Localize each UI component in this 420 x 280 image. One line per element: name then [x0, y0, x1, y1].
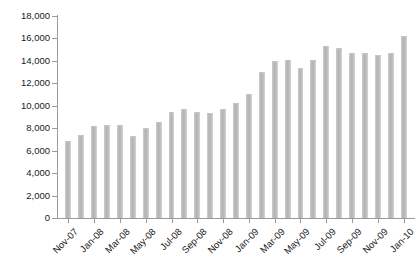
- y-axis-tick-label: 2,000: [2, 191, 50, 201]
- bar: [169, 112, 175, 218]
- x-axis-tick: [197, 218, 198, 223]
- bar: [65, 141, 71, 218]
- x-axis-tick: [94, 218, 95, 223]
- bar: [181, 109, 187, 218]
- bar: [375, 55, 381, 218]
- y-axis-tick: [52, 128, 57, 129]
- y-axis-tick-label: 4,000: [2, 168, 50, 178]
- bar: [310, 60, 316, 218]
- y-axis-tick: [52, 196, 57, 197]
- x-axis-tick: [275, 218, 276, 223]
- bar: [143, 128, 149, 218]
- x-axis-tick: [120, 218, 121, 223]
- bar: [323, 46, 329, 218]
- y-axis-tick: [52, 38, 57, 39]
- bar: [298, 68, 304, 218]
- y-axis-tick-label: 8,000: [2, 123, 50, 133]
- bar: [336, 48, 342, 218]
- x-axis-tick: [326, 218, 327, 223]
- x-axis-tick: [378, 218, 379, 223]
- y-axis-tick-label: 14,000: [2, 56, 50, 66]
- y-axis-tick-label: 16,000: [2, 34, 50, 44]
- y-axis-tick-label: 10,000: [2, 101, 50, 111]
- bar: [220, 109, 226, 218]
- bar: [156, 122, 162, 218]
- x-axis-tick: [172, 218, 173, 223]
- bar: [272, 61, 278, 218]
- y-axis-tick-label: 0: [2, 213, 50, 223]
- bar: [91, 126, 97, 218]
- y-axis-tick: [52, 16, 57, 17]
- bar: [349, 53, 355, 218]
- bar: [130, 136, 136, 218]
- y-axis-tick: [52, 83, 57, 84]
- y-axis-tick: [52, 106, 57, 107]
- x-axis-tick: [223, 218, 224, 223]
- bar: [259, 72, 265, 218]
- bar: [104, 125, 110, 218]
- bar: [388, 53, 394, 218]
- bar: [194, 112, 200, 218]
- bar: [207, 113, 213, 218]
- bar-chart: 02,0004,0006,0008,00010,00012,00014,0001…: [0, 0, 420, 280]
- bar: [401, 36, 407, 218]
- x-axis-line: [57, 218, 415, 219]
- y-axis-tick-label: 12,000: [2, 79, 50, 89]
- x-axis-tick: [146, 218, 147, 223]
- bar: [285, 60, 291, 218]
- bar: [78, 135, 84, 218]
- y-axis-tick: [52, 218, 57, 219]
- bar: [233, 103, 239, 218]
- y-axis-tick: [52, 61, 57, 62]
- x-axis-tick: [249, 218, 250, 223]
- x-axis-tick: [352, 218, 353, 223]
- bars-container: [58, 16, 414, 218]
- bar: [246, 94, 252, 218]
- y-axis-tick: [52, 173, 57, 174]
- y-axis-tick-label: 18,000: [2, 11, 50, 21]
- y-axis-tick-label: 6,000: [2, 146, 50, 156]
- bar: [117, 125, 123, 218]
- x-axis-tick: [300, 218, 301, 223]
- y-axis-labels: 02,0004,0006,0008,00010,00012,00014,0001…: [0, 0, 50, 280]
- x-axis-tick: [404, 218, 405, 223]
- x-axis-tick: [68, 218, 69, 223]
- y-axis-tick: [52, 151, 57, 152]
- bar: [362, 53, 368, 218]
